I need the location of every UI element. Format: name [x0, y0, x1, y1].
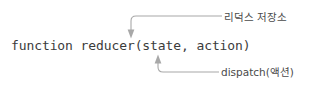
callout-label-dispatch: dispatch(액션) — [221, 66, 294, 79]
reducer-annotation-diagram: function reducer(state, action) 리덕스 저장소 … — [0, 0, 309, 90]
reducer-function-signature: function reducer(state, action) — [11, 38, 251, 54]
dispatch-connector-line — [158, 62, 219, 72]
store-connector-line — [131, 16, 222, 30]
dispatch-arrowhead-up-icon — [155, 55, 162, 64]
callout-label-store: 리덕스 저장소 — [224, 11, 287, 24]
